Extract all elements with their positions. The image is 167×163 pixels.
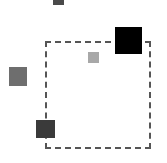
light-gray-square[interactable] — [88, 52, 99, 63]
black-square[interactable] — [115, 27, 142, 54]
diagram-canvas — [0, 0, 167, 163]
left-gray-square[interactable] — [9, 67, 27, 86]
bottom-left-dark-square[interactable] — [36, 120, 55, 138]
top-square[interactable] — [53, 0, 64, 5]
